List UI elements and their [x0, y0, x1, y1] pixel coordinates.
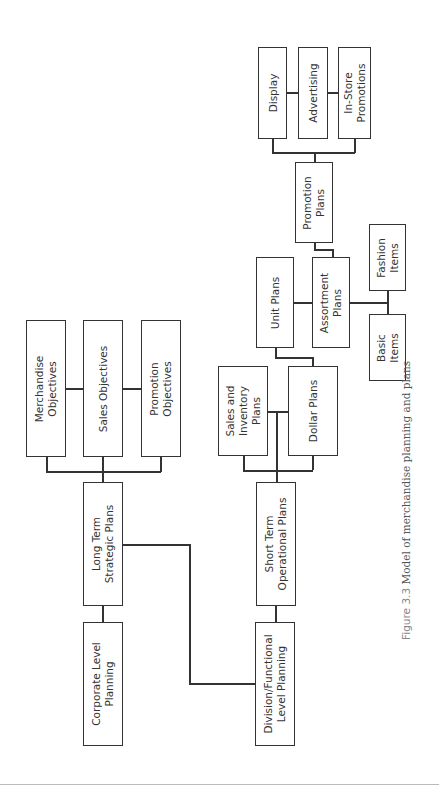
node-label: Fashion Items — [375, 238, 401, 278]
promotion-objectives-box: Promotion Objectives — [141, 320, 181, 457]
assortment-plans-box: Assortment Plans — [312, 257, 350, 348]
corporate-level-planning-box: Corporate Level Planning — [83, 622, 123, 746]
connector-line — [189, 683, 255, 685]
connector-line — [272, 139, 274, 153]
caption-text: Model of merchandise planning and plans — [400, 361, 412, 588]
connector-line — [46, 457, 48, 472]
page-divider — [0, 784, 439, 785]
connector-line — [294, 302, 312, 304]
connector-line — [312, 456, 314, 470]
connector-line — [275, 606, 277, 622]
in-store-promotions-box: In-Store Promotions — [338, 47, 371, 139]
connector-line — [66, 388, 83, 390]
node-label: Display — [266, 74, 279, 113]
advertising-box: Advertising — [298, 47, 328, 139]
connector-line — [314, 249, 333, 251]
connector-line — [46, 471, 161, 473]
display-box: Display — [258, 47, 287, 139]
connector-line — [123, 388, 141, 390]
figure-caption: Figure 3.3 Model of merchandise planning… — [400, 361, 412, 640]
sales-objectives-box: Sales Objectives — [83, 320, 123, 457]
division-functional-planning-box: Division/Functional Level Planning — [255, 622, 295, 746]
connector-line — [268, 411, 288, 413]
node-label: Sales and Inventory Plans — [224, 385, 263, 436]
node-label: Division/Functional Level Planning — [262, 634, 288, 733]
unit-plans-box: Unit Plans — [256, 257, 294, 348]
node-label: Basic Items — [375, 333, 401, 362]
node-label: Long Term Strategic Plans — [90, 505, 116, 584]
short-term-operational-plans-box: Short Term Operational Plans — [256, 482, 296, 606]
node-label: Corporate Level Planning — [90, 642, 116, 726]
node-label: Merchandise Objectives — [33, 355, 59, 422]
node-label: Unit Plans — [269, 276, 282, 329]
connector-line — [189, 544, 191, 683]
sales-inventory-plans-box: Sales and Inventory Plans — [218, 366, 268, 456]
connector-line — [328, 92, 338, 94]
connector-line — [123, 544, 189, 546]
connector-line — [275, 357, 313, 359]
connector-line — [287, 92, 298, 94]
fashion-items-box: Fashion Items — [369, 224, 406, 291]
node-label: Dollar Plans — [307, 380, 320, 442]
node-label: Promotion Plans — [301, 176, 327, 229]
figure-label: Figure 3.3 — [400, 588, 412, 640]
connector-line — [387, 291, 389, 314]
node-label: Sales Objectives — [97, 345, 110, 432]
connector-line — [354, 139, 356, 153]
node-label: Advertising — [307, 63, 320, 122]
connector-line — [350, 302, 387, 304]
connector-line — [243, 470, 313, 472]
node-label: Promotion Objectives — [148, 361, 174, 416]
connector-line — [160, 457, 162, 472]
node-label: Assortment Plans — [318, 272, 344, 332]
long-term-strategic-plans-box: Long Term Strategic Plans — [83, 482, 123, 606]
node-label: In-Store Promotions — [342, 64, 368, 123]
merchandise-objectives-box: Merchandise Objectives — [26, 320, 66, 457]
connector-line — [102, 606, 104, 622]
connector-line — [276, 411, 278, 482]
connector-line — [332, 249, 334, 257]
dollar-plans-box: Dollar Plans — [288, 366, 338, 456]
connector-line — [312, 357, 314, 366]
promotion-plans-box: Promotion Plans — [295, 162, 333, 243]
connector-line — [272, 152, 355, 154]
connector-line — [102, 457, 104, 482]
connector-line — [243, 456, 245, 470]
node-label: Short Term Operational Plans — [263, 498, 289, 591]
connector-line — [275, 348, 277, 357]
connector-line — [314, 152, 316, 162]
